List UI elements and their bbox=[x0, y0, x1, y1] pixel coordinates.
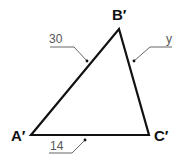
leader-side-ab bbox=[50, 47, 88, 62]
vertex-b-label: B′ bbox=[112, 6, 127, 23]
side-ac-label: 14 bbox=[50, 139, 64, 153]
vertex-c-label: C′ bbox=[154, 127, 169, 144]
side-bc-label: y bbox=[166, 32, 172, 46]
side-ab-label: 30 bbox=[49, 32, 63, 46]
triangle-diagram: 30 y 14 A′ B′ C′ bbox=[0, 0, 183, 168]
vertex-a-label: A′ bbox=[11, 127, 26, 144]
leader-side-bc bbox=[133, 47, 172, 62]
